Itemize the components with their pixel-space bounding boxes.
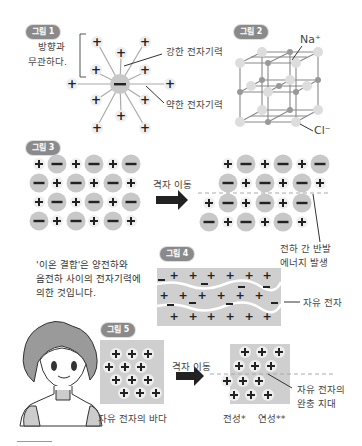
svg-text:+: + [206,310,215,323]
svg-text:+: + [235,289,244,302]
svg-text:+: + [254,289,263,302]
malleability-label: 연성** [258,412,286,425]
svg-text:+: + [188,310,197,323]
svg-text:+: + [262,310,271,323]
footnote-divider [17,441,52,442]
svg-text:+: + [197,289,206,302]
svg-text:+: + [262,269,271,282]
svg-text:+: + [244,310,253,323]
svg-text:+: + [169,269,178,282]
free-electron-label: 자유 전자 [303,296,342,309]
svg-text:+: + [178,289,187,302]
svg-text:+: + [169,310,178,323]
buffer-zone-label-1: 자유 전자의 [297,383,345,396]
svg-text:+: + [244,269,253,282]
na-ion-label: Na⁺ [300,33,321,46]
lattice-shift-label: 격자 이동 [153,178,192,191]
svg-text:+: + [225,310,234,323]
cl-ion-label: Cl⁻ [314,124,331,137]
ductility-label: 전성* [223,412,246,425]
buffer-zone-label-2: 완충 지대 [297,397,336,410]
lattice-shift-label-2: 격자 이동 [172,360,211,373]
svg-text:+: + [216,289,225,302]
figure-4-badge: 그림 4 [160,247,194,261]
svg-text:+: + [159,289,168,302]
svg-text:+: + [188,269,197,282]
repulsion-label-1: 전하 간 반발 [280,242,331,255]
electron-sea-label: 자유 전자의 바다 [98,412,167,425]
nacl-crystal-lattice [0,0,362,150]
svg-text:+: + [206,269,215,282]
svg-text:+: + [225,269,234,282]
